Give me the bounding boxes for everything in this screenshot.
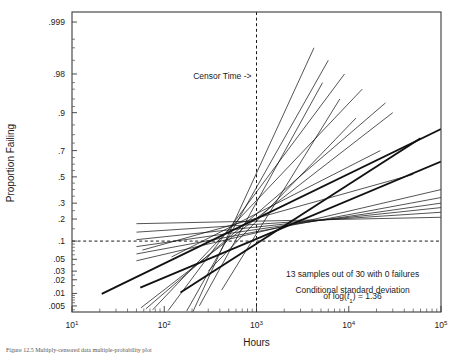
y-tick-label: .005 [48, 301, 65, 311]
y-tick-label: .9 [58, 108, 65, 118]
y-tick-label: .3 [58, 198, 65, 208]
y-tick-label: .999 [48, 17, 65, 27]
plot-background [0, 0, 459, 355]
lognormal-probability-plot: .999.98.9.7.5.3.2.1.05.03.02.01.005 1011… [0, 0, 459, 355]
x-tick-exponent: 4 [352, 319, 356, 326]
y-tick-label: .7 [58, 146, 65, 156]
y-tick-label: .05 [53, 254, 65, 264]
y-tick-label: .98 [53, 69, 65, 79]
y-tick-label: .2 [58, 214, 65, 224]
sample-count-annotation: 13 samples out of 30 with 0 failures [286, 269, 419, 279]
y-tick-label: .1 [58, 236, 65, 246]
figure-caption: Figure 12.5 Multiply-censored data multi… [6, 347, 152, 353]
y-axis-title: Proportion Failing [5, 124, 16, 202]
x-tick-exponent: 5 [444, 319, 448, 326]
sd-suffix: ) = 1.36 [353, 291, 382, 301]
x-axis-title: Hours [243, 337, 270, 348]
sd-prefix: of log( [323, 291, 347, 301]
y-tick-label: .02 [53, 275, 65, 285]
x-tick-exponent: 2 [167, 319, 171, 326]
x-tick-exponent: 3 [260, 319, 264, 326]
y-tick-label: .01 [53, 288, 65, 298]
censor-time-label: Censor Time -> [193, 71, 251, 81]
y-tick-label: .5 [58, 172, 65, 182]
x-tick-exponent: 1 [75, 319, 79, 326]
